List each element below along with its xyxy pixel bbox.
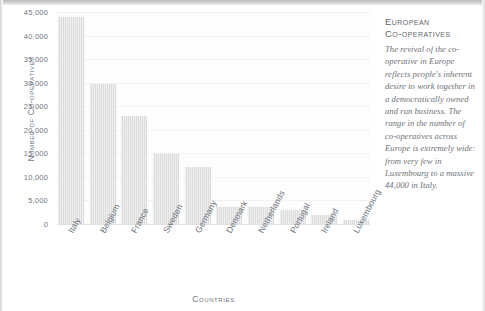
bar-slot [120,12,148,224]
x-label-slot: Belgium [89,228,117,294]
x-label-slot: Portugal [279,228,307,294]
bar-series [57,12,370,224]
caption-heading-line1: European [385,16,430,27]
bar-slot [184,12,212,224]
figure-container: Number of Co-operatives 45,00040,00035,0… [0,0,485,311]
y-tick-label: 35,000 [24,55,48,64]
x-label-slot: Germany [184,228,212,294]
x-label-slot: Italy [57,228,85,294]
bar-italy [58,17,84,224]
y-tick-label: 45,000 [24,8,48,17]
y-tick-label: 0 [44,220,48,229]
bar-chart: Number of Co-operatives 45,00040,00035,0… [0,8,378,308]
bar-slot [310,12,338,224]
x-label-slot: Ireland [310,228,338,294]
y-tick-label: 15,000 [24,149,48,158]
x-label-slot: Denmark [215,228,243,294]
top-border-rule [0,0,485,5]
y-tick-label: 25,000 [24,102,48,111]
caption-heading-line2: Co-operatives [385,28,451,39]
x-label-slot: Netherlands [247,228,275,294]
x-axis-tick-labels: ItalyBelgiumFranceSwedenGermanyDenmarkNe… [57,228,370,294]
y-tick-label: 10,000 [24,172,48,181]
y-tick-label: 20,000 [24,125,48,134]
bar-slot [57,12,85,224]
caption-panel: European Co-operatives The revival of th… [385,16,477,192]
x-label-slot: Luxembourg [342,228,370,294]
y-tick-label: 30,000 [24,78,48,87]
y-axis-tick-labels: 45,00040,00035,00030,00025,00020,00015,0… [0,12,53,224]
x-axis-title: Countries [57,294,370,304]
bar-slot [247,12,275,224]
caption-heading: European Co-operatives [385,16,477,39]
x-label-slot: Sweden [152,228,180,294]
caption-body: The revival of the co-operative in Europ… [385,43,477,192]
bar-slot [152,12,180,224]
bar-slot [215,12,243,224]
bar-slot [89,12,117,224]
plot-area [57,12,370,224]
x-label-slot: France [120,228,148,294]
bar-slot [342,12,370,224]
y-tick-label: 40,000 [24,31,48,40]
y-tick-label: 5,000 [28,196,48,205]
